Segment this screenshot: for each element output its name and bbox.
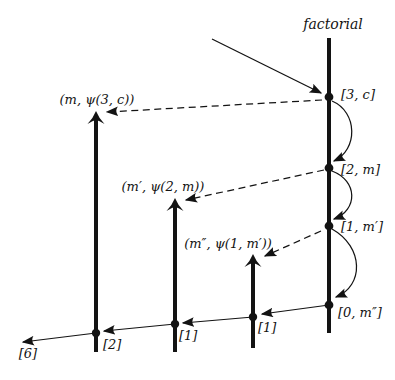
result-dot-2: [171, 320, 179, 328]
continuation-capture-arrow-2: [186, 170, 324, 200]
event-label-2m: [2, m]: [341, 162, 381, 177]
continuation-label-1: (m, ψ(3, c)): [60, 92, 135, 107]
factorial-continuation-diagram: factorial [3, c] [2, m] [1, m′] [0, m″] …: [0, 0, 395, 380]
diagram-stage: factorial [3, c] [2, m] [1, m′] [0, m″] …: [0, 0, 395, 380]
recursive-call-arc-2: [332, 171, 352, 219]
event-dot-0m: [325, 301, 334, 310]
continuation-capture-arrow-3: [265, 231, 321, 256]
initial-call-arrow: [212, 39, 321, 93]
continuation-capture-arrow-1: [107, 100, 322, 112]
result-label-1: [2]: [103, 337, 122, 352]
event-dot-2m: [325, 164, 334, 173]
event-dot-3c: [325, 93, 334, 102]
result-label-3: [1]: [258, 320, 277, 335]
recursive-call-arc-1: [332, 101, 352, 161]
recursive-call-arc-3: [332, 229, 357, 297]
return-arrow-1: [262, 305, 329, 314]
result-dot-3: [249, 313, 257, 321]
continuation-label-2: (m′, ψ(2, m)): [122, 179, 205, 194]
final-result-label: [6]: [19, 346, 38, 361]
result-label-2: [1]: [179, 328, 198, 343]
result-dot-1: [92, 329, 100, 337]
return-arrow-4: [23, 333, 96, 342]
return-arrow-2: [183, 317, 253, 323]
continuation-label-3: (m″, ψ(1, m′)): [184, 236, 272, 251]
event-dot-1m: [325, 222, 334, 231]
event-label-0m: [0, m″]: [338, 305, 383, 320]
event-label-3c: [3, c]: [341, 87, 376, 102]
event-label-1m: [1, m′]: [341, 219, 384, 234]
process-label: factorial: [302, 16, 362, 32]
return-arrow-3: [104, 324, 175, 331]
